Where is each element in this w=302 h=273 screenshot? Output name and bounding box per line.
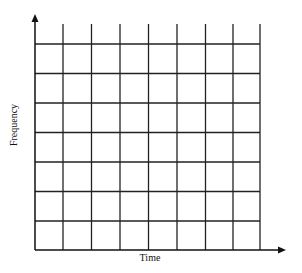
- x-axis-arrow-icon: [278, 247, 286, 254]
- x-axis-label: Time: [128, 252, 172, 263]
- axes: [35, 20, 280, 250]
- grid-lines: [35, 24, 260, 250]
- y-axis-arrow-icon: [32, 14, 39, 22]
- y-axis-label: Frequency: [7, 95, 21, 155]
- chart-grid: [0, 0, 302, 273]
